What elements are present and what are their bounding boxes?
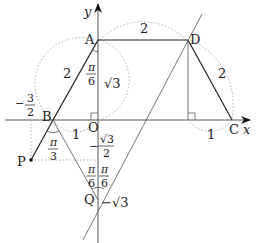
arc-DC — [190, 40, 233, 118]
point-P — [29, 158, 33, 162]
angle-Q-left-den: 6 — [88, 177, 95, 190]
length-AB: 2 — [63, 66, 71, 81]
geometry-diagram: x y A B C D O P Q 2 2 2 √3 1 1 π 6 π 3 π — [0, 0, 260, 243]
coord-Px-sign: − — [15, 97, 24, 110]
angle-Q-left-num: π — [87, 163, 96, 176]
coord-Qy: −√3 — [101, 195, 128, 210]
angle-Q-right-num: π — [100, 163, 109, 176]
right-angle-D-foot — [188, 113, 195, 120]
angle-A-num: π — [87, 61, 96, 74]
angle-Q-right-den: 6 — [101, 177, 108, 190]
angle-B-den: 3 — [50, 150, 57, 163]
label-P: P — [17, 154, 26, 169]
label-A: A — [84, 32, 95, 47]
label-B: B — [42, 109, 52, 124]
y-axis-label: y — [83, 4, 92, 19]
length-DC: 2 — [218, 66, 226, 81]
length-AD: 2 — [140, 21, 148, 36]
angle-arc-B — [47, 131, 59, 133]
length-AO: √3 — [104, 76, 121, 91]
angle-arc-A — [93, 50, 98, 52]
coord-Px-num: 3 — [27, 92, 34, 105]
label-D: D — [190, 32, 200, 47]
right-angle-O — [91, 113, 98, 120]
coord-Py-sign: − — [89, 140, 98, 153]
length-foot-C: 1 — [207, 127, 215, 142]
label-Q: Q — [84, 192, 95, 207]
label-C: C — [229, 122, 239, 137]
x-axis-label: x — [243, 122, 251, 137]
coord-Py-num: √3 — [100, 133, 114, 146]
label-O: O — [88, 120, 99, 135]
coord-Py-den: 2 — [103, 147, 110, 160]
angle-B-num: π — [49, 136, 58, 149]
angle-A-den: 6 — [88, 75, 95, 88]
coord-Px-den: 2 — [27, 106, 34, 119]
length-BO: 1 — [72, 127, 80, 142]
